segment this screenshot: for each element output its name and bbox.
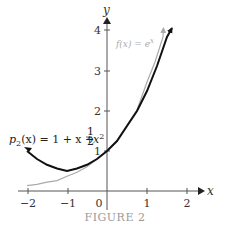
y-tick-label: 4 bbox=[94, 24, 101, 37]
x-axis-label: x bbox=[207, 184, 214, 198]
chart-canvas: −2 −1 0 1 2 1 2 3 4 x y f(x) = ex p2(x) … bbox=[0, 0, 230, 232]
x-tick-label: −2 bbox=[20, 197, 36, 210]
exp-curve-label: f(x) = ex bbox=[115, 37, 154, 49]
y-tick-label: 2 bbox=[94, 105, 101, 118]
x-tick-label: −1 bbox=[60, 197, 76, 210]
y-axis-label: y bbox=[102, 3, 110, 17]
x-tick-label: 0 bbox=[96, 197, 103, 210]
y-axis-arrow-icon bbox=[103, 17, 111, 24]
x-tick-label: 2 bbox=[184, 197, 191, 210]
x-tick-label: 1 bbox=[144, 197, 151, 210]
y-tick-label: 3 bbox=[94, 65, 101, 78]
figure-caption: FIGURE 2 bbox=[0, 211, 230, 224]
taylor-curve-label: p2(x) = 1 + x + bbox=[9, 133, 94, 148]
taylor-x-squared: x2 bbox=[93, 132, 104, 146]
x-axis-arrow-icon bbox=[198, 187, 205, 195]
